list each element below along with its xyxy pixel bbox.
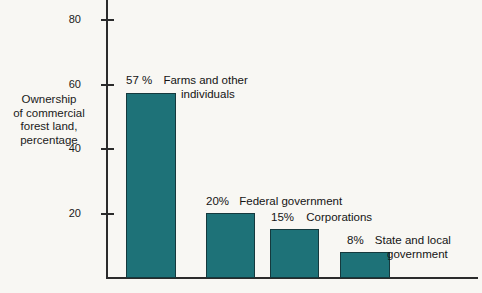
- y-tick-label-40: 40: [55, 143, 81, 154]
- bar-category-farms-line-1: Farms and other: [163, 74, 247, 86]
- y-axis-title-line-4: percentage: [0, 134, 98, 148]
- bar-value-federal: 20%: [206, 195, 229, 207]
- bar-value-state-local: 8%: [347, 234, 364, 246]
- bar-category-state-local-line-2: government: [347, 248, 451, 262]
- bar-category-state-local-line-1: State and local: [375, 234, 451, 246]
- y-axis-title-line-1: Ownership: [0, 93, 98, 107]
- y-axis-title-line-3: forest land,: [0, 120, 98, 134]
- bar-category-federal: Federal government: [239, 195, 342, 207]
- y-tick-mark-80: [101, 19, 114, 21]
- y-tick-mark-40: [101, 148, 114, 150]
- y-axis-title: Ownership of commercial forest land, per…: [0, 93, 98, 147]
- y-axis-title-line-2: of commercial: [0, 107, 98, 121]
- bar-value-farms: 57 %: [126, 74, 152, 86]
- bar-farms-and-other-individuals: [126, 93, 176, 278]
- bar-label-farms-and-other-individuals: 57 % Farms and other individuals: [126, 74, 248, 101]
- bar-label-federal-government: 20% Federal government: [206, 195, 342, 209]
- bar-category-farms-line-2: individuals: [126, 88, 248, 102]
- bar-value-corporations: 15%: [271, 211, 294, 223]
- y-tick-mark-60: [101, 84, 114, 86]
- bar-label-state-and-local-government: 8% State and local government: [347, 234, 451, 261]
- bar-chart: Ownership of commercial forest land, per…: [0, 0, 482, 293]
- y-axis-line: [106, 0, 108, 279]
- bar-category-corporations: Corporations: [306, 211, 372, 223]
- bar-federal-government: [206, 213, 255, 278]
- y-tick-label-80: 80: [55, 14, 81, 25]
- y-tick-label-20: 20: [55, 208, 81, 219]
- bar-corporations: [270, 229, 319, 278]
- y-tick-label-60: 60: [55, 79, 81, 90]
- y-tick-mark-20: [101, 213, 114, 215]
- bar-label-corporations: 15% Corporations: [271, 211, 372, 225]
